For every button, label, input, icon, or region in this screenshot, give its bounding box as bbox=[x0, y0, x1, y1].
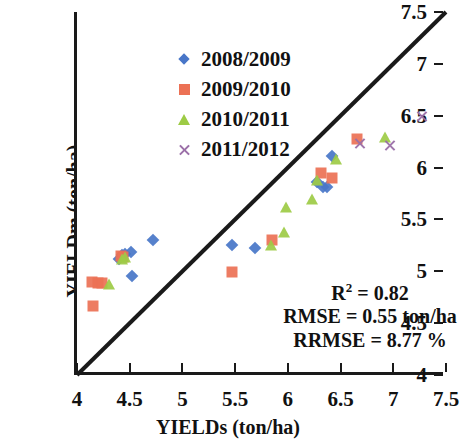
legend-swatch bbox=[178, 114, 190, 125]
data-point-triangle bbox=[119, 251, 131, 262]
plot-area: 44.555.566.577.5 44.555.566.577.5 2008/2… bbox=[74, 12, 443, 375]
legend-item-2008-2009[interactable]: 2008/2009 bbox=[173, 44, 291, 74]
x-tick-label: 6.5 bbox=[327, 387, 353, 412]
rrmse-text: RRMSE = 8.77 % bbox=[255, 329, 464, 353]
x-tick-label: 7 bbox=[388, 387, 399, 412]
legend-item-2010-2011[interactable]: 2010/2011 bbox=[173, 104, 291, 134]
data-point-triangle bbox=[280, 201, 292, 212]
x-tick-label: 4 bbox=[72, 387, 83, 412]
x-tick-label: 4.5 bbox=[117, 387, 143, 412]
data-point-triangle bbox=[278, 226, 290, 237]
y-tick-mark bbox=[434, 167, 443, 169]
legend-marker-square-icon bbox=[173, 84, 195, 95]
data-point-square bbox=[226, 267, 237, 278]
data-point-triangle bbox=[306, 193, 318, 204]
r-squared-label: R bbox=[331, 282, 345, 304]
y-tick-label: 6 bbox=[417, 155, 428, 180]
x-tick-mark bbox=[445, 363, 447, 372]
data-point-triangle bbox=[103, 278, 115, 289]
data-point-cross bbox=[415, 109, 428, 122]
data-point-square bbox=[327, 172, 338, 183]
legend-marker-cross-icon bbox=[173, 143, 195, 156]
y-tick-label: 4 bbox=[417, 363, 428, 388]
x-tick-label: 7.5 bbox=[433, 387, 459, 412]
x-tick-mark bbox=[181, 363, 183, 372]
legend-label: 2010/2011 bbox=[201, 107, 290, 132]
x-tick-label: 6 bbox=[283, 387, 294, 412]
x-tick-mark bbox=[340, 363, 342, 372]
x-tick-label: 5.5 bbox=[222, 387, 248, 412]
r-squared-text: R2 = 0.82 bbox=[255, 280, 464, 305]
y-tick-label: 7.5 bbox=[401, 0, 427, 25]
x-tick-mark bbox=[76, 363, 78, 372]
data-point-triangle bbox=[330, 154, 342, 165]
data-point-triangle bbox=[265, 240, 277, 251]
y-tick-mark bbox=[434, 115, 443, 117]
data-point-square bbox=[87, 300, 98, 311]
y-tick-label: 7 bbox=[417, 51, 428, 76]
x-tick-mark bbox=[129, 363, 131, 372]
x-tick-mark bbox=[287, 363, 289, 372]
y-tick-mark bbox=[434, 218, 443, 220]
x-tick-mark bbox=[234, 363, 236, 372]
legend-label: 2011/2012 bbox=[201, 137, 290, 162]
legend-swatch bbox=[178, 53, 189, 64]
x-tick-mark bbox=[392, 363, 394, 372]
legend-swatch bbox=[178, 143, 191, 156]
legend-label: 2009/2010 bbox=[201, 77, 291, 102]
legend-marker-diamond-icon bbox=[173, 55, 195, 63]
y-tick-label: 5.5 bbox=[401, 207, 427, 232]
x-axis-title: YIELDs (ton/ha) bbox=[0, 416, 456, 439]
legend-item-2009-2010[interactable]: 2009/2010 bbox=[173, 74, 291, 104]
y-tick-mark bbox=[434, 374, 443, 376]
y-tick-mark bbox=[434, 270, 443, 272]
legend: 2008/20092009/20102010/20112011/2012 bbox=[173, 44, 291, 164]
r-squared-value: = 0.82 bbox=[352, 282, 408, 304]
legend-marker-triangle-icon bbox=[173, 114, 195, 125]
data-point-cross bbox=[353, 136, 366, 149]
data-point-triangle bbox=[311, 174, 323, 185]
statistics-annotation: R2 = 0.82 RMSE = 0.55 ton/ha RRMSE = 8.7… bbox=[255, 280, 464, 352]
rmse-text: RMSE = 0.55 ton/ha bbox=[255, 305, 464, 329]
y-tick-mark bbox=[434, 63, 443, 65]
x-tick-label: 5 bbox=[177, 387, 188, 412]
data-point-cross bbox=[384, 138, 397, 151]
legend-item-2011-2012[interactable]: 2011/2012 bbox=[173, 134, 291, 164]
legend-swatch bbox=[179, 84, 190, 95]
y-tick-mark bbox=[434, 11, 443, 13]
legend-label: 2008/2009 bbox=[201, 47, 291, 72]
